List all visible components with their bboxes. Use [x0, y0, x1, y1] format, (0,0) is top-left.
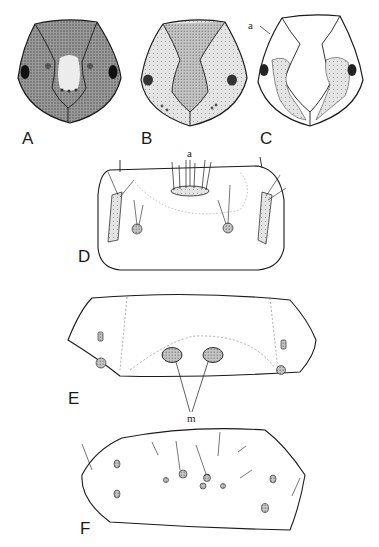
panel-a-head-capsule — [18, 20, 121, 123]
panel-c-head-capsule — [258, 15, 363, 126]
eye-right — [227, 75, 237, 86]
eye-left — [21, 65, 30, 79]
eye-right — [348, 64, 357, 76]
panel-label-c: C — [260, 130, 272, 147]
panel-b-head-capsule — [141, 20, 247, 126]
panel-e-segment — [68, 294, 316, 412]
figure-plate — [0, 0, 379, 547]
eye-left — [143, 75, 153, 86]
eye-left — [260, 64, 269, 76]
panel-f-lateral-segment — [82, 429, 305, 530]
panel-label-f: F — [80, 520, 90, 537]
panel-label-a: A — [22, 130, 33, 147]
panel-label-d: D — [78, 248, 90, 265]
panel-label-b: B — [141, 130, 152, 147]
panel-label-e: E — [68, 390, 79, 407]
panel-d-pronotum — [98, 157, 286, 270]
annotation-a-panel-c: a — [248, 20, 253, 31]
eye-right — [109, 65, 118, 79]
annotation-m-panel-e: m — [187, 413, 196, 424]
annotation-a-panel-d: a — [187, 148, 192, 159]
